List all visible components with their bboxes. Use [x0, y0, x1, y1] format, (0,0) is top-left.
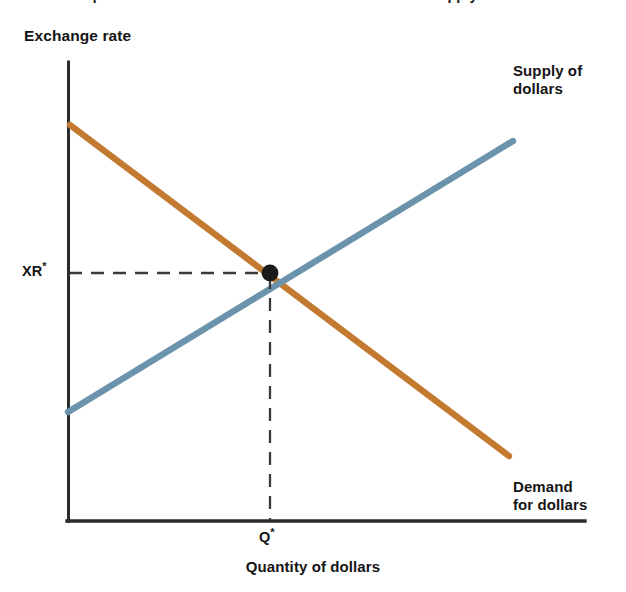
supply-curve: [68, 141, 513, 412]
demand-curve-label-line2: for dollars: [513, 496, 587, 514]
y-axis-tick-text: XR: [22, 263, 42, 279]
x-axis-tick-label-q: Q*: [259, 529, 275, 546]
equilibrium-point-marker: [262, 265, 279, 282]
demand-curve-label: Demand for dollars: [513, 478, 587, 513]
demand-curve-label-line1: Demand: [513, 478, 587, 496]
supply-curve-label: Supply of dollars: [513, 62, 582, 97]
exchange-rate-market-figure: Equilibrium in the market for dollars: d…: [0, 0, 626, 592]
x-axis-title: Quantity of dollars: [0, 558, 626, 576]
x-axis-tick-star: *: [270, 526, 274, 538]
y-axis-tick-star: *: [42, 260, 46, 272]
supply-curve-label-line1: Supply of: [513, 62, 582, 80]
x-axis-tick-text: Q: [259, 529, 270, 545]
y-axis-tick-label-xr: XR*: [22, 263, 46, 280]
supply-curve-label-line2: dollars: [513, 80, 582, 98]
y-axis-title: Exchange rate: [24, 27, 131, 45]
demand-curve: [70, 125, 509, 456]
